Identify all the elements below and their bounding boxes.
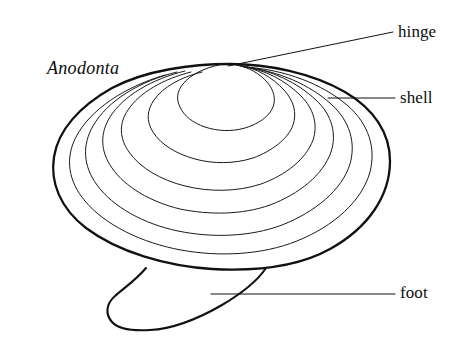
label-shell: shell bbox=[400, 88, 433, 107]
label-foot: foot bbox=[400, 283, 428, 302]
shell-outline bbox=[53, 64, 390, 270]
genus-name-label: Anodonta bbox=[47, 58, 119, 78]
label-hinge: hinge bbox=[398, 22, 436, 41]
anodonta-figure: Anodonta hinge shell foot bbox=[0, 0, 474, 341]
